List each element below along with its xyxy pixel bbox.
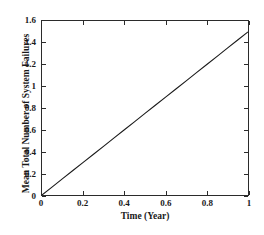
y-tick-mark-right	[244, 20, 248, 21]
x-tick-label: 0.4	[119, 198, 130, 208]
x-tick-label: 0.6	[160, 198, 171, 208]
y-tick-mark-right	[244, 108, 248, 109]
y-tick-mark	[42, 108, 46, 109]
y-tick-mark-right	[244, 42, 248, 43]
y-tick-mark	[42, 86, 46, 87]
chart-figure: 00.20.40.60.81 00.20.40.60.811.21.41.6 T…	[0, 0, 264, 235]
y-tick-mark	[42, 152, 46, 153]
y-axis-title: Mean Total Number of System Failures	[21, 26, 32, 202]
x-tick-label: 0.8	[202, 198, 213, 208]
x-tick-mark	[207, 191, 208, 195]
y-tick-mark-right	[244, 130, 248, 131]
x-tick-mark-top	[166, 21, 167, 25]
x-tick-mark	[124, 191, 125, 195]
y-tick-mark-right	[244, 196, 248, 197]
x-tick-label: 0.2	[77, 198, 88, 208]
x-tick-mark	[41, 191, 42, 195]
data-series-line	[42, 32, 248, 195]
y-tick-mark	[42, 42, 46, 43]
y-tick-mark	[42, 20, 46, 21]
y-tick-mark-right	[244, 174, 248, 175]
x-tick-mark	[166, 191, 167, 195]
x-tick-mark-top	[83, 21, 84, 25]
y-tick-mark-right	[244, 86, 248, 87]
x-tick-label: 1	[247, 198, 252, 208]
y-tick-mark-right	[244, 64, 248, 65]
x-tick-mark-top	[124, 21, 125, 25]
x-tick-mark-top	[207, 21, 208, 25]
y-tick-mark	[42, 130, 46, 131]
x-tick-mark-top	[249, 21, 250, 25]
y-tick-mark	[42, 174, 46, 175]
data-line-svg	[42, 21, 248, 195]
x-axis-title: Time (Year)	[41, 211, 249, 222]
y-tick-mark-right	[244, 152, 248, 153]
x-tick-label: 0	[39, 198, 44, 208]
y-tick-label: 1.6	[2, 15, 36, 25]
x-tick-mark	[83, 191, 84, 195]
x-tick-mark	[249, 191, 250, 195]
x-tick-mark-top	[41, 21, 42, 25]
y-tick-mark	[42, 196, 46, 197]
y-tick-mark	[42, 64, 46, 65]
plot-area	[41, 20, 249, 196]
